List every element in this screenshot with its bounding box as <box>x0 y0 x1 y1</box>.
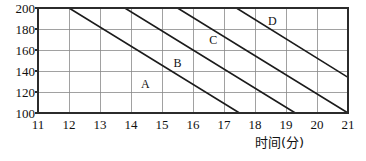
series-label-d: D <box>268 15 277 27</box>
series-label-a: A <box>141 78 150 90</box>
series-labels: ABCD <box>0 0 366 161</box>
x-axis-title: 时间(分) <box>255 136 304 150</box>
series-label-b: B <box>174 57 182 69</box>
chart-figure: 100120140160180200 111213141516171819202… <box>0 0 366 161</box>
series-label-c: C <box>209 34 217 46</box>
